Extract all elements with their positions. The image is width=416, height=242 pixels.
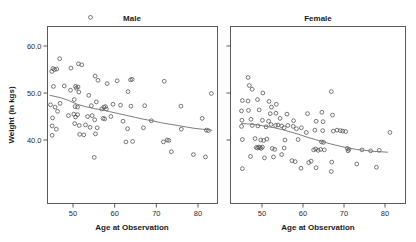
data-point — [162, 140, 166, 144]
data-point — [278, 116, 282, 120]
data-point — [76, 113, 80, 117]
data-point — [76, 105, 80, 109]
data-point-group-female — [240, 76, 392, 174]
data-point — [109, 115, 113, 119]
data-point — [322, 148, 326, 152]
data-point — [261, 118, 265, 122]
panel-title-female: Female — [304, 14, 332, 23]
data-point — [142, 126, 146, 130]
data-point — [73, 122, 77, 126]
data-point — [88, 125, 92, 129]
data-point — [115, 79, 119, 83]
x-tick-label: 60 — [110, 209, 118, 218]
data-point — [246, 99, 250, 103]
plot-canvas: Weight (in kgs) Male 40.050.060.0 506070… — [0, 0, 416, 242]
data-point — [250, 87, 254, 91]
data-point — [329, 90, 333, 94]
data-point — [78, 132, 82, 136]
data-point — [286, 124, 290, 128]
data-point — [53, 105, 57, 109]
data-point — [200, 116, 204, 120]
data-point — [77, 124, 81, 128]
data-point — [299, 166, 303, 170]
data-point — [162, 79, 166, 83]
data-point — [374, 165, 378, 169]
panel-female: Female 50607080 Age at Observation — [227, 14, 406, 232]
data-point — [93, 118, 97, 122]
data-point — [92, 155, 96, 159]
x-tick-label: 80 — [194, 209, 202, 218]
data-point — [131, 140, 135, 144]
x-tick-label: 80 — [381, 209, 389, 218]
x-tick-label: 60 — [299, 209, 307, 218]
y-axis-title: Weight (in kgs) — [7, 86, 16, 144]
data-point — [314, 119, 318, 123]
data-point — [274, 111, 278, 115]
data-point — [240, 138, 244, 142]
data-point — [126, 90, 130, 94]
data-point — [240, 118, 244, 122]
data-point — [72, 98, 76, 102]
data-point — [56, 109, 60, 113]
data-point — [304, 131, 308, 135]
data-point — [49, 103, 53, 107]
y-tick-label: 40.0 — [27, 136, 42, 145]
data-point — [90, 114, 94, 118]
data-point — [143, 104, 147, 108]
data-point — [273, 148, 277, 152]
data-point — [265, 137, 269, 141]
x-tick-group-male: 50607080 — [69, 204, 202, 219]
data-point — [51, 116, 55, 120]
x-tick-label: 50 — [258, 209, 266, 218]
data-point — [292, 119, 296, 123]
data-point — [93, 74, 97, 78]
data-point — [296, 138, 300, 142]
data-point — [282, 146, 286, 150]
data-point — [247, 84, 251, 88]
data-point — [240, 109, 244, 113]
x-axis-title-male: Age at Observation — [95, 223, 168, 232]
data-point — [269, 123, 273, 127]
data-point — [320, 110, 324, 114]
data-point — [94, 100, 98, 104]
data-point — [204, 155, 208, 159]
data-point — [306, 112, 310, 116]
data-point — [209, 92, 213, 96]
data-point — [295, 127, 299, 131]
data-point — [62, 84, 66, 88]
data-point — [283, 138, 287, 142]
data-point — [89, 15, 93, 19]
data-point — [95, 126, 99, 130]
data-point — [263, 156, 267, 160]
panel-frame-male — [48, 27, 218, 204]
data-point — [111, 102, 115, 106]
x-tick-label: 70 — [152, 209, 160, 218]
data-point — [169, 150, 173, 154]
data-point — [261, 91, 265, 95]
data-point — [257, 108, 261, 112]
data-point — [94, 132, 98, 136]
data-point — [50, 133, 54, 137]
data-point — [321, 120, 325, 124]
y-tick-label: 50.0 — [27, 89, 42, 98]
data-point — [249, 117, 253, 121]
data-point — [270, 105, 274, 109]
data-point — [330, 160, 334, 164]
trend-line-male — [50, 95, 212, 130]
data-point-group-male — [49, 15, 214, 159]
x-tick-group-female: 50607080 — [258, 204, 389, 219]
data-point — [274, 102, 278, 106]
data-point — [105, 82, 109, 86]
y-tick-group-male: 40.050.060.0 — [27, 42, 48, 145]
data-point — [331, 129, 335, 133]
data-point — [280, 153, 284, 157]
data-point — [58, 57, 62, 61]
data-point — [256, 98, 260, 102]
data-point — [285, 112, 289, 116]
data-point — [276, 123, 280, 127]
data-point — [124, 140, 128, 144]
data-point — [86, 115, 90, 119]
data-point — [240, 167, 244, 171]
data-point — [89, 104, 93, 108]
data-point — [331, 113, 335, 117]
